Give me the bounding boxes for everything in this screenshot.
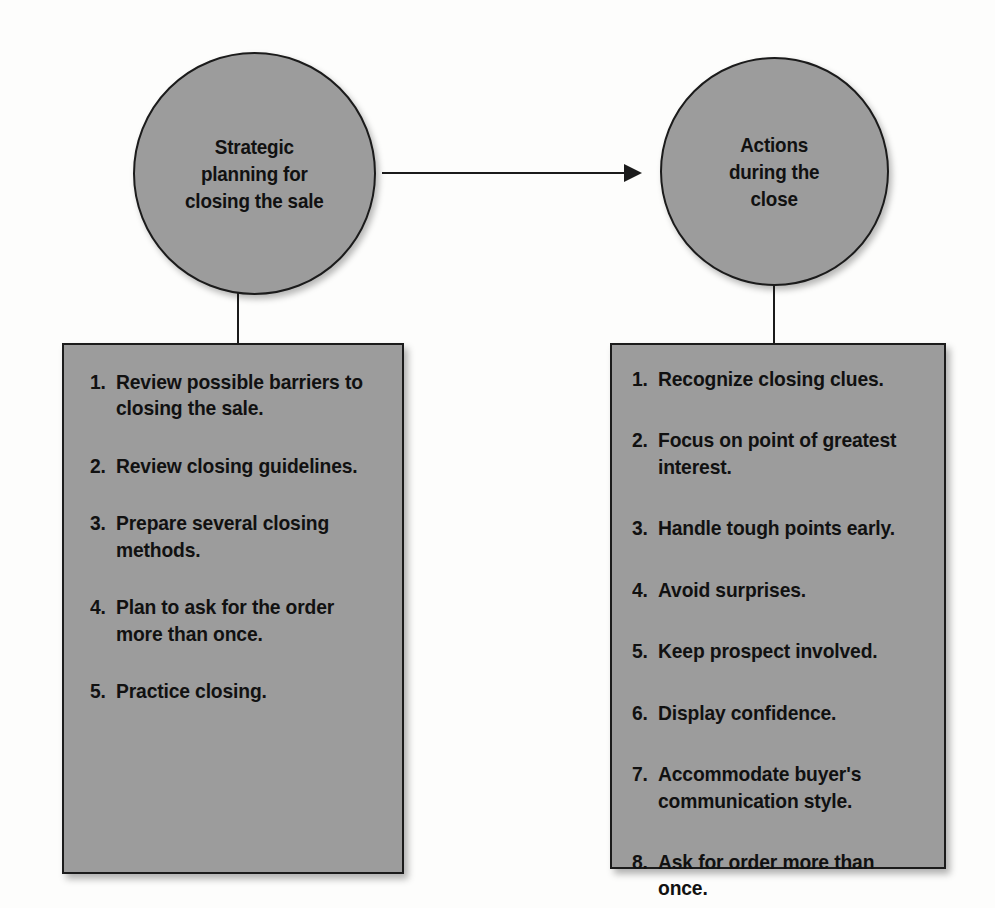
node-box-planning-steps: 1. Review possible barriers to closing t… (62, 343, 404, 874)
step-number: 7. (632, 761, 656, 787)
node-circle-actions-during-close: Actions during the close (660, 57, 889, 286)
step-number: 5. (632, 638, 656, 664)
list-item: 4. Avoid surprises. (632, 577, 930, 603)
circle-label-actions-during-close: Actions during the close (713, 131, 836, 212)
diagram-canvas: Strategic planning for closing the sale … (0, 0, 995, 908)
step-number: 1. (632, 366, 656, 392)
step-text: Recognize closing clues. (658, 366, 914, 392)
list-item: 1. Recognize closing clues. (632, 366, 930, 392)
step-number: 2. (632, 427, 656, 453)
node-box-action-steps: 1. Recognize closing clues. 2. Focus on … (610, 343, 946, 869)
step-text: Handle tough points early. (658, 515, 914, 541)
step-text: Prepare several closing methods. (116, 510, 368, 563)
flow-arrow-icon (380, 152, 642, 194)
node-circle-strategic-planning: Strategic planning for closing the sale (133, 52, 376, 295)
list-item: 5. Practice closing. (90, 678, 384, 704)
step-number: 8. (632, 849, 656, 875)
step-text: Avoid surprises. (658, 577, 914, 603)
list-item: 3. Handle tough points early. (632, 515, 930, 541)
planning-step-list: 1. Review possible barriers to closing t… (64, 345, 402, 705)
list-item: 2. Focus on point of greatest interest. (632, 427, 930, 480)
step-text: Keep prospect involved. (658, 638, 914, 664)
list-item: 6. Display confidence. (632, 700, 930, 726)
step-text: Display confidence. (658, 700, 914, 726)
action-step-list: 1. Recognize closing clues. 2. Focus on … (612, 345, 944, 902)
step-text: Focus on point of greatest interest. (658, 427, 914, 480)
list-item: 3. Prepare several closing methods. (90, 510, 384, 563)
step-number: 3. (90, 510, 114, 536)
step-text: Review closing guidelines. (116, 453, 368, 479)
connector-strategic-to-planning-box (237, 293, 239, 344)
step-number: 6. (632, 700, 656, 726)
step-number: 1. (90, 369, 114, 395)
list-item: 2. Review closing guidelines. (90, 453, 384, 479)
step-number: 3. (632, 515, 656, 541)
connector-actions-to-actions-box (773, 285, 775, 344)
step-text: Review possible barriers to closing the … (116, 369, 368, 422)
step-text: Ask for order more than once. (658, 849, 914, 902)
step-text: Accommodate buyer's communication style. (658, 761, 914, 814)
step-number: 5. (90, 678, 114, 704)
list-item: 4. Plan to ask for the order more than o… (90, 594, 384, 647)
step-number: 4. (90, 594, 114, 620)
step-number: 2. (90, 453, 114, 479)
list-item: 8. Ask for order more than once. (632, 849, 930, 902)
step-text: Plan to ask for the order more than once… (116, 594, 368, 647)
step-text: Practice closing. (116, 678, 368, 704)
list-item: 5. Keep prospect involved. (632, 638, 930, 664)
circle-label-strategic-planning: Strategic planning for closing the sale (169, 133, 341, 214)
list-item: 7. Accommodate buyer's communication sty… (632, 761, 930, 814)
list-item: 1. Review possible barriers to closing t… (90, 369, 384, 422)
step-number: 4. (632, 577, 656, 603)
